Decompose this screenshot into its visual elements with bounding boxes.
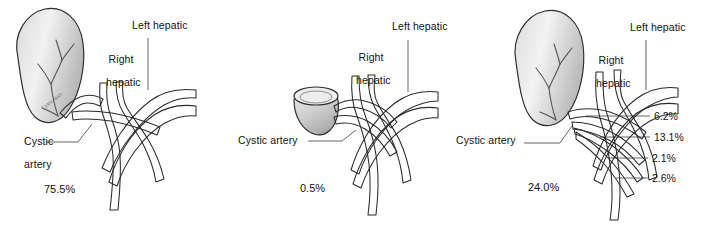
cystic-artery-label-2: Cystic artery xyxy=(238,135,298,147)
panel-variant-1: Right hepatic Left hepatic Cystic artery… xyxy=(0,0,234,225)
panel-2-illustration xyxy=(234,0,468,225)
measure-label-2: 2.1% xyxy=(652,152,676,164)
measure-label-3: 2.6% xyxy=(652,172,676,184)
cystic-artery-label-1: Cystic artery xyxy=(6,124,53,182)
cystic-artery-branches-3 xyxy=(568,109,646,197)
cystic-artery-2 xyxy=(334,100,397,156)
right-hepatic-label-1: Right hepatic xyxy=(88,42,136,100)
left-hepatic-artery-1 xyxy=(102,89,196,186)
gallbladder-2 xyxy=(294,87,338,135)
panel-1-illustration xyxy=(0,0,234,225)
right-hepatic-label-3: Right hepatic xyxy=(578,43,626,101)
left-hepatic-label-2: Left hepatic xyxy=(392,21,448,33)
gallbladder-3 xyxy=(515,10,584,125)
measure-label-0: 6.2% xyxy=(654,110,678,122)
right-hepatic-artery-1 xyxy=(100,82,164,210)
right-hepatic-label-2: Right hepatic xyxy=(338,40,386,98)
anatomy-figure: Right hepatic Left hepatic Cystic artery… xyxy=(0,0,702,225)
left-hepatic-label-1: Left hepatic xyxy=(132,20,188,32)
panel-1-percent: 75.5% xyxy=(44,183,75,195)
panel-variant-3: Right hepatic Left hepatic Cystic artery… xyxy=(468,0,702,225)
measure-label-1: 13.1% xyxy=(654,131,684,143)
panel-2-percent: 0.5% xyxy=(300,182,325,194)
cystic-artery-label-3: Cystic artery xyxy=(456,135,516,147)
left-hepatic-label-3: Left hepatic xyxy=(630,22,686,34)
panel-variant-2: Right hepatic Left hepatic Cystic artery… xyxy=(234,0,468,225)
panel-3-percent: 24.0% xyxy=(528,181,559,193)
left-hepatic-artery-2 xyxy=(351,91,438,188)
